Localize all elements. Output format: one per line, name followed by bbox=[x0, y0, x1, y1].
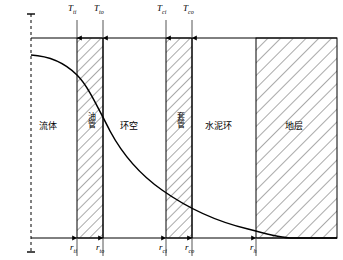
wellbore-centerline bbox=[27, 14, 35, 252]
zone-label-annulus: 环空 bbox=[120, 122, 138, 131]
radius-label-r-to: rto bbox=[96, 243, 104, 254]
zone-label-casing: 套管 bbox=[175, 112, 183, 128]
temperature-label-t-ci: Tci bbox=[157, 4, 166, 15]
zone-label-tubing: 油管 bbox=[86, 112, 94, 128]
zone-label-formation: 地层 bbox=[285, 122, 303, 131]
temperature-label-t-to: Tto bbox=[94, 4, 104, 15]
temperature-arrows bbox=[77, 20, 192, 38]
radius-label-r-ti: rti bbox=[70, 243, 77, 254]
temperature-label-t-ti: Tti bbox=[68, 4, 76, 15]
zone-casing-band bbox=[166, 38, 192, 238]
temperature-label-t-co: Tco bbox=[183, 4, 194, 15]
zone-label-fluid: 流体 bbox=[39, 122, 57, 131]
zone-label-cement: 水泥环 bbox=[205, 122, 232, 131]
wellbore-temperature-diagram: Tti Tto Tci Tco rti rto rci rco rh 流体 油管… bbox=[0, 0, 343, 260]
radius-label-r-h: rh bbox=[250, 243, 257, 254]
radius-label-r-ci: rci bbox=[159, 243, 167, 254]
zone-tubing-band bbox=[77, 38, 103, 238]
radius-label-r-co: rco bbox=[185, 243, 194, 254]
zone-formation-band bbox=[256, 38, 337, 238]
